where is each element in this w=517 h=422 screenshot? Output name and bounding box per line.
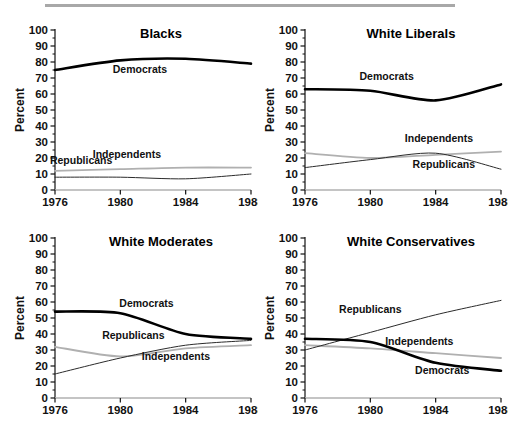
x-tick-label: 1976	[42, 196, 68, 208]
x-tick-label: 1988	[488, 196, 508, 208]
y-tick-label: 40	[35, 328, 48, 340]
y-tick-label: 80	[35, 56, 48, 68]
y-tick-label: 0	[292, 184, 298, 196]
x-tick-label: 1980	[108, 404, 134, 416]
y-tick-label: 90	[285, 40, 298, 52]
x-tick-label: 1976	[292, 196, 318, 208]
series-label-republicans: Republicans	[413, 158, 476, 170]
chart-panel-white-conservatives: 10090807060504030201001976198019841988Pe…	[258, 222, 508, 418]
y-tick-label: 50	[285, 312, 298, 324]
x-tick-label: 1980	[358, 196, 384, 208]
panel-title: White Liberals	[367, 26, 456, 41]
top-horizontal-rule	[45, 4, 455, 7]
figure-root: 10090807060504030201001976198019841988Pe…	[0, 0, 517, 422]
chart-svg-blacks: 10090807060504030201001976198019841988Pe…	[8, 14, 258, 210]
chart-panel-white-liberals: 10090807060504030201001976198019841988Pe…	[258, 14, 508, 210]
y-tick-label: 100	[279, 24, 298, 36]
y-tick-label: 60	[35, 296, 48, 308]
y-tick-label: 50	[35, 104, 48, 116]
y-tick-label: 40	[35, 120, 48, 132]
y-tick-label: 90	[35, 40, 48, 52]
y-axis-title: Percent	[263, 88, 277, 132]
series-label-independents: Independents	[142, 350, 210, 362]
x-tick-label: 1988	[238, 404, 258, 416]
y-tick-label: 0	[42, 184, 48, 196]
y-tick-label: 80	[35, 264, 48, 276]
y-axis-title: Percent	[263, 296, 277, 340]
y-tick-label: 50	[35, 312, 48, 324]
y-tick-label: 0	[42, 392, 48, 404]
y-tick-label: 70	[35, 72, 48, 84]
chart-svg-white-conservatives: 10090807060504030201001976198019841988Pe…	[258, 222, 508, 418]
x-tick-label: 1988	[238, 196, 258, 208]
x-tick-label: 1984	[173, 196, 199, 208]
chart-panel-blacks: 10090807060504030201001976198019841988Pe…	[8, 14, 258, 210]
x-tick-label: 1984	[423, 404, 449, 416]
series-line-democrats	[305, 84, 501, 100]
series-line-independents	[55, 168, 251, 171]
y-tick-label: 80	[285, 264, 298, 276]
y-tick-label: 100	[29, 232, 48, 244]
series-label-democrats: Democrats	[119, 297, 173, 309]
y-tick-label: 0	[292, 392, 298, 404]
panel-title: White Moderates	[109, 234, 213, 249]
x-tick-label: 1988	[488, 404, 508, 416]
series-label-republicans: Republicans	[339, 303, 402, 315]
x-tick-label: 1976	[42, 404, 68, 416]
y-tick-label: 70	[285, 72, 298, 84]
x-tick-label: 1980	[358, 404, 384, 416]
y-tick-label: 20	[285, 152, 298, 164]
y-tick-label: 90	[285, 248, 298, 260]
series-label-republicans: Republicans	[102, 329, 165, 341]
y-tick-label: 60	[285, 296, 298, 308]
y-tick-label: 30	[285, 344, 298, 356]
y-tick-label: 80	[285, 56, 298, 68]
y-tick-label: 30	[285, 136, 298, 148]
y-tick-label: 10	[35, 168, 48, 180]
x-tick-label: 1984	[423, 196, 449, 208]
y-tick-label: 70	[35, 280, 48, 292]
y-tick-label: 10	[285, 376, 298, 388]
y-tick-label: 10	[35, 376, 48, 388]
series-label-independents: Independents	[405, 132, 473, 144]
panel-title: Blacks	[140, 26, 182, 41]
panel-title: White Conservatives	[347, 234, 475, 249]
y-tick-label: 100	[29, 24, 48, 36]
series-label-democrats: Democrats	[113, 63, 167, 75]
y-tick-label: 100	[279, 232, 298, 244]
chart-svg-white-liberals: 10090807060504030201001976198019841988Pe…	[258, 14, 508, 210]
y-tick-label: 20	[35, 360, 48, 372]
y-tick-label: 20	[35, 152, 48, 164]
series-label-independents: Independents	[93, 148, 161, 160]
y-tick-label: 20	[285, 360, 298, 372]
series-label-independents: Independents	[385, 335, 453, 347]
chart-panel-white-moderates: 10090807060504030201001976198019841988Pe…	[8, 222, 258, 418]
x-tick-label: 1984	[173, 404, 199, 416]
y-tick-label: 10	[285, 168, 298, 180]
y-axis-title: Percent	[13, 88, 27, 132]
y-tick-label: 60	[285, 88, 298, 100]
x-tick-label: 1976	[292, 404, 318, 416]
y-tick-label: 30	[35, 136, 48, 148]
y-axis-title: Percent	[13, 296, 27, 340]
x-tick-label: 1980	[108, 196, 134, 208]
y-tick-label: 30	[35, 344, 48, 356]
chart-svg-white-moderates: 10090807060504030201001976198019841988Pe…	[8, 222, 258, 418]
y-tick-label: 90	[35, 248, 48, 260]
y-tick-label: 60	[35, 88, 48, 100]
series-label-democrats: Democrats	[415, 364, 469, 376]
y-tick-label: 40	[285, 120, 298, 132]
series-label-democrats: Democrats	[360, 70, 414, 82]
series-line-republicans	[55, 174, 251, 179]
y-tick-label: 50	[285, 104, 298, 116]
y-tick-label: 70	[285, 280, 298, 292]
y-tick-label: 40	[285, 328, 298, 340]
